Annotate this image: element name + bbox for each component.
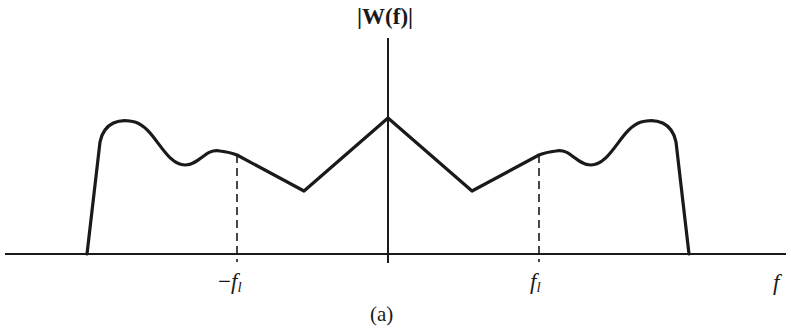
tick-subscript: l — [536, 279, 540, 295]
tick-label-neg-fl: −fl — [218, 269, 242, 296]
tick-sign: − — [218, 269, 231, 294]
figure-caption: (a) — [370, 302, 393, 327]
y-axis-label: |W(f)| — [357, 4, 413, 30]
x-axis-label: f — [773, 270, 779, 296]
spectrum-diagram — [0, 0, 791, 332]
tick-subscript: l — [237, 279, 241, 295]
tick-label-pos-fl: fl — [530, 269, 541, 296]
